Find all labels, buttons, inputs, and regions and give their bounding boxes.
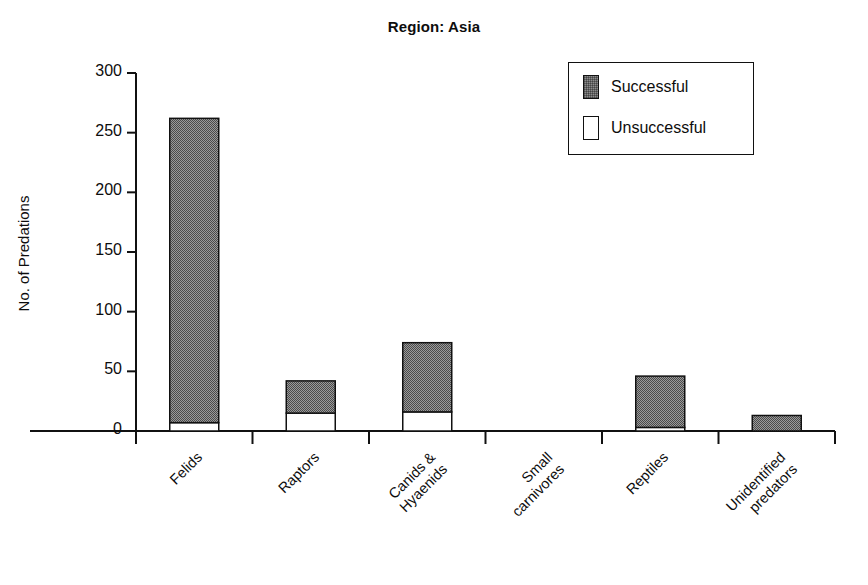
legend-item-successful: Successful [583, 75, 688, 99]
bars-group [170, 118, 802, 431]
bar-segment-successful [286, 381, 335, 413]
bar-segment-successful [403, 343, 452, 412]
legend-swatch-successful [583, 75, 599, 99]
bar-segment-unsuccessful [403, 412, 452, 431]
legend-label-unsuccessful: Unsuccessful [611, 119, 706, 137]
y-tick-label: 300 [40, 62, 122, 80]
chart-container: Region: Asia No. of Predations 050100150… [0, 0, 868, 585]
y-tick-label: 200 [40, 181, 122, 199]
bar-segment-successful [636, 376, 685, 427]
bar-segment-successful [170, 118, 219, 422]
bar-segment-unsuccessful [170, 423, 219, 431]
y-tick-label: 250 [40, 122, 122, 140]
bar-segment-successful [752, 415, 801, 431]
bar-segment-unsuccessful [286, 413, 335, 431]
legend-label-successful: Successful [611, 78, 688, 96]
y-tick-label: 100 [40, 301, 122, 319]
y-tick-label: 0 [40, 420, 122, 438]
chart-legend: Successful Unsuccessful [568, 62, 754, 155]
legend-swatch-unsuccessful [583, 116, 599, 140]
y-tick-label: 50 [40, 360, 122, 378]
legend-item-unsuccessful: Unsuccessful [583, 116, 706, 140]
y-tick-label: 150 [40, 241, 122, 259]
